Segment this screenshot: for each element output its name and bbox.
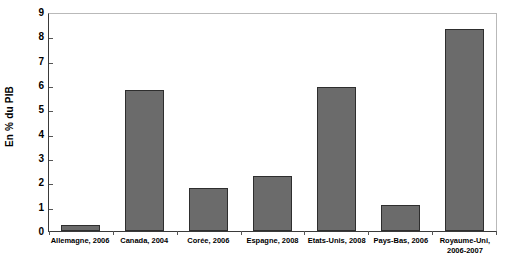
x-axis-tick-label: Etats-Unis, 2008 — [305, 236, 369, 256]
x-tick-mark — [496, 231, 497, 235]
bar — [61, 225, 100, 231]
bar — [253, 176, 292, 231]
y-axis-tick-label: 1 — [22, 203, 44, 213]
bar-slot — [432, 14, 496, 231]
bar — [317, 87, 356, 231]
x-tick-mark — [432, 231, 433, 235]
y-axis-tick-label: 0 — [22, 227, 44, 237]
bar — [125, 90, 164, 231]
x-tick-mark — [304, 231, 305, 235]
y-axis-tick-label: 2 — [22, 178, 44, 188]
y-axis-title: En % du PIB — [0, 0, 20, 232]
y-axis-tick-label: 5 — [22, 105, 44, 115]
bar-slot — [49, 14, 113, 231]
bar-slot — [241, 14, 305, 231]
y-axis-title-label: En % du PIB — [5, 85, 16, 146]
x-tick-mark — [368, 231, 369, 235]
y-axis-tick-label: 9 — [22, 8, 44, 18]
plot-area — [48, 13, 497, 232]
bar — [445, 29, 484, 231]
x-tick-mark — [241, 231, 242, 235]
y-axis-tick-label: 6 — [22, 81, 44, 91]
x-tick-mark — [177, 231, 178, 235]
x-axis-tick-label: Corée, 2006 — [176, 236, 240, 256]
bar-slot — [368, 14, 432, 231]
x-tick-mark — [113, 231, 114, 235]
bar-chart: En % du PIB 9876543210 Allemagne, 2006Ca… — [0, 0, 505, 269]
y-axis-tick-label: 7 — [22, 57, 44, 67]
y-axis-tick-label: 8 — [22, 32, 44, 42]
x-axis-tick-label: Allemagne, 2006 — [48, 236, 112, 256]
x-axis-tick-label: Espagne, 2008 — [240, 236, 304, 256]
x-axis-tick-label: Canada, 2004 — [112, 236, 176, 256]
x-tick-mark — [49, 231, 50, 235]
bar — [189, 188, 228, 231]
x-axis-tick-label: Royaume-Uni, 2006-2007 — [433, 236, 497, 256]
y-axis-tick-label: 3 — [22, 154, 44, 164]
bar — [381, 205, 420, 231]
y-axis-tick-labels: 9876543210 — [22, 13, 44, 232]
bar-slot — [177, 14, 241, 231]
x-axis-tick-labels: Allemagne, 2006Canada, 2004Corée, 2006Es… — [48, 236, 497, 256]
bar-slot — [113, 14, 177, 231]
y-axis-tick-label: 4 — [22, 130, 44, 140]
bar-slot — [304, 14, 368, 231]
bars-container — [49, 14, 496, 231]
x-axis-tick-label: Pays-Bas, 2006 — [369, 236, 433, 256]
